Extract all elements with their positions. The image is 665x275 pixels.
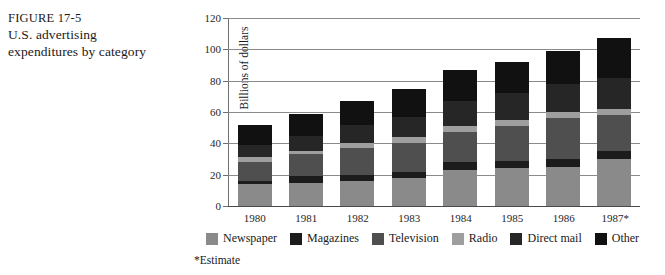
legend-swatch-icon bbox=[595, 233, 607, 245]
x-axis-tick-label: 1987* bbox=[598, 212, 632, 224]
y-axis-tick-label: 100 bbox=[205, 43, 222, 55]
x-axis-tick-labels: 19801981198219831984198519861987* bbox=[229, 212, 641, 224]
estimate-footnote: *Estimate bbox=[194, 254, 240, 266]
bar-segment[interactable] bbox=[546, 84, 580, 112]
legend-label: Radio bbox=[469, 231, 498, 246]
bar-segment[interactable] bbox=[443, 170, 477, 206]
bar-segment[interactable] bbox=[340, 101, 374, 125]
bar-column[interactable] bbox=[392, 18, 426, 206]
y-axis-tick-label: 80 bbox=[210, 75, 221, 87]
legend-label: Magazines bbox=[307, 231, 359, 246]
bar-segment[interactable] bbox=[289, 183, 323, 207]
figure-title-line-2: expenditures by category bbox=[8, 43, 183, 60]
bar-stack bbox=[392, 89, 426, 206]
legend-label: Television bbox=[389, 231, 439, 246]
y-axis-tick-label: 0 bbox=[216, 200, 222, 212]
bar-segment[interactable] bbox=[495, 93, 529, 120]
bar-stack bbox=[495, 62, 529, 206]
legend-swatch-icon bbox=[290, 233, 302, 245]
bar-segment[interactable] bbox=[289, 154, 323, 176]
bar-segment[interactable] bbox=[597, 159, 631, 206]
bar-segment[interactable] bbox=[392, 143, 426, 171]
legend-label: Other bbox=[612, 231, 639, 246]
legend-item[interactable]: Direct mail bbox=[510, 231, 581, 246]
bar-segment[interactable] bbox=[443, 132, 477, 162]
legend-label: Direct mail bbox=[527, 231, 581, 246]
bar-segment[interactable] bbox=[340, 148, 374, 175]
bar-column[interactable] bbox=[597, 18, 631, 206]
bar-stack bbox=[289, 114, 323, 206]
bar-segment[interactable] bbox=[392, 178, 426, 206]
bar-segment[interactable] bbox=[443, 70, 477, 101]
y-axis-tick bbox=[223, 18, 228, 19]
bar-segment[interactable] bbox=[546, 167, 580, 206]
x-axis-tick-label: 1984 bbox=[444, 212, 478, 224]
legend-swatch-icon bbox=[372, 233, 384, 245]
bar-stack bbox=[443, 70, 477, 206]
bar-stack bbox=[340, 101, 374, 206]
bar-segment[interactable] bbox=[340, 181, 374, 206]
y-axis-tick-label: 120 bbox=[205, 12, 222, 24]
bar-column[interactable] bbox=[443, 18, 477, 206]
y-axis-tick-label: 40 bbox=[210, 137, 221, 149]
x-axis-tick-label: 1980 bbox=[238, 212, 272, 224]
x-axis-tick-label: 1981 bbox=[289, 212, 323, 224]
figure-title-line-1: U.S. advertising bbox=[8, 26, 183, 43]
x-axis-tick-label: 1985 bbox=[495, 212, 529, 224]
legend-item[interactable]: Magazines bbox=[290, 231, 359, 246]
legend-item[interactable]: Other bbox=[595, 231, 639, 246]
legend-item[interactable]: Newspaper bbox=[206, 231, 277, 246]
bar-segment[interactable] bbox=[392, 117, 426, 137]
bar-column[interactable] bbox=[289, 18, 323, 206]
bar-segment[interactable] bbox=[238, 145, 272, 158]
bar-segment[interactable] bbox=[546, 118, 580, 159]
bar-segment[interactable] bbox=[289, 114, 323, 136]
bar-column[interactable] bbox=[238, 18, 272, 206]
bar-column[interactable] bbox=[495, 18, 529, 206]
y-axis-tick bbox=[223, 143, 228, 144]
bar-stack bbox=[238, 125, 272, 206]
bar-segment[interactable] bbox=[495, 62, 529, 93]
x-axis-tick-label: 1982 bbox=[341, 212, 375, 224]
bar-segment[interactable] bbox=[546, 159, 580, 167]
y-axis-tick bbox=[223, 49, 228, 50]
bar-stack bbox=[597, 38, 631, 206]
bar-stack bbox=[546, 51, 580, 206]
bar-column[interactable] bbox=[546, 18, 580, 206]
figure-caption: FIGURE 17-5 U.S. advertising expenditure… bbox=[8, 10, 183, 61]
bar-segment[interactable] bbox=[238, 184, 272, 206]
y-axis-tick bbox=[223, 112, 228, 113]
bar-segment[interactable] bbox=[597, 115, 631, 151]
legend-item[interactable]: Television bbox=[372, 231, 439, 246]
gridline bbox=[228, 206, 640, 207]
bar-column[interactable] bbox=[340, 18, 374, 206]
x-axis-tick-label: 1986 bbox=[547, 212, 581, 224]
bar-segment[interactable] bbox=[238, 162, 272, 181]
legend-swatch-icon bbox=[510, 233, 522, 245]
plot-area: 020406080100120 bbox=[228, 18, 640, 206]
bar-segment[interactable] bbox=[340, 125, 374, 144]
bar-segment[interactable] bbox=[392, 89, 426, 117]
y-axis-tick bbox=[223, 81, 228, 82]
legend-label: Newspaper bbox=[223, 231, 277, 246]
bar-group bbox=[229, 18, 640, 206]
bar-segment[interactable] bbox=[495, 126, 529, 160]
x-axis-tick-label: 1983 bbox=[392, 212, 426, 224]
bar-segment[interactable] bbox=[495, 161, 529, 169]
y-axis-tick bbox=[223, 206, 228, 207]
legend-item[interactable]: Radio bbox=[452, 231, 498, 246]
y-axis-tick bbox=[223, 175, 228, 176]
bar-segment[interactable] bbox=[238, 125, 272, 145]
legend-swatch-icon bbox=[452, 233, 464, 245]
bar-segment[interactable] bbox=[597, 38, 631, 77]
bar-segment[interactable] bbox=[443, 101, 477, 126]
bar-segment[interactable] bbox=[597, 78, 631, 109]
bar-segment[interactable] bbox=[597, 151, 631, 159]
legend-swatch-icon bbox=[206, 233, 218, 245]
y-axis-tick-label: 60 bbox=[210, 106, 221, 118]
bar-segment[interactable] bbox=[495, 168, 529, 206]
bar-segment[interactable] bbox=[443, 162, 477, 170]
bar-segment[interactable] bbox=[546, 51, 580, 84]
chart-legend: NewspaperMagazinesTelevisionRadioDirect … bbox=[206, 231, 639, 246]
bar-segment[interactable] bbox=[289, 136, 323, 152]
